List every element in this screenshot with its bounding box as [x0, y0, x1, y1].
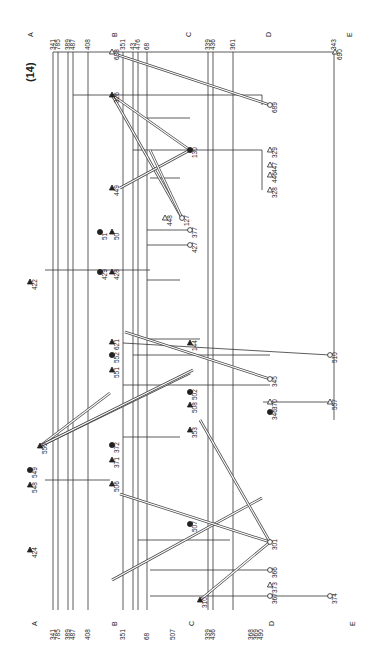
bus-labels-d-bottom: 368 369 490 — [247, 629, 264, 640]
node-label: 690 — [336, 49, 343, 60]
node-label: 301 — [271, 539, 278, 550]
svg-text:487: 487 — [69, 39, 76, 50]
region-label-b-bottom: B — [111, 621, 118, 626]
node-label: 424 — [31, 547, 38, 558]
node-label: 127 — [183, 215, 190, 226]
node-label: 688 — [113, 49, 120, 60]
wiring-diagram: (14) A B C D E A B C D E 341 785 389 487… — [0, 0, 382, 651]
bus-labels-b-bottom: 351 68 507 — [119, 629, 176, 640]
node-label: 508 — [191, 402, 198, 413]
svg-text:785: 785 — [54, 39, 61, 50]
region-label-c-top: C — [185, 32, 192, 37]
region-label-e-bottom: E — [349, 621, 356, 626]
node-label: 371 — [113, 457, 120, 468]
cable-lines — [40, 55, 270, 600]
node-label: 50 — [113, 232, 120, 240]
node-label: 447 — [271, 162, 278, 173]
node-label: 326 — [113, 92, 120, 103]
svg-text:351: 351 — [119, 629, 126, 640]
node-label: 448 — [166, 215, 173, 226]
bus-labels-a-bottom: 341 785 389 487 408 — [49, 629, 91, 640]
node-label: 310 — [201, 597, 208, 608]
region-label-d-bottom: D — [268, 621, 275, 626]
node-label: 446 — [271, 172, 278, 183]
svg-text:487: 487 — [69, 629, 76, 640]
node-label: 557 — [331, 399, 338, 410]
bus-a — [53, 52, 88, 610]
bus-labels-a-top: 341 785 389 487 408 — [49, 39, 91, 50]
node-label: 429 — [101, 269, 108, 280]
node-label: 422 — [31, 279, 38, 290]
node-label: 329 — [271, 147, 278, 158]
node-label: 428 — [113, 269, 120, 280]
region-label-b-top: B — [111, 32, 118, 37]
node-label: 130 — [191, 147, 198, 158]
svg-text:436: 436 — [209, 629, 216, 640]
svg-text:408: 408 — [84, 39, 91, 50]
bus-labels-c-top: 339 436 361 — [204, 39, 236, 50]
node-label: 689 — [271, 102, 278, 113]
region-label-d-top: D — [265, 32, 272, 37]
svg-text:507: 507 — [169, 629, 176, 640]
node-label: 366 — [271, 567, 278, 578]
node-label: 427 — [191, 242, 198, 253]
node-label: 374 — [331, 593, 338, 604]
node-label: 449 — [113, 185, 120, 196]
node-label: 372 — [113, 442, 120, 453]
page-number: (14) — [24, 62, 36, 82]
node-label: 328 — [271, 187, 278, 198]
svg-text:351: 351 — [119, 39, 126, 50]
node-label: 370 — [271, 399, 278, 410]
node-label: 621 — [113, 339, 120, 350]
bus-labels-b-top: 351 43 476 68 — [119, 39, 150, 50]
node-label: 345 — [271, 376, 278, 387]
node-label: 549 — [31, 467, 38, 478]
svg-text:408: 408 — [84, 629, 91, 640]
svg-text:476: 476 — [134, 39, 141, 50]
node-label: 507 — [191, 521, 198, 532]
node-label: 346 — [271, 409, 278, 420]
svg-text:68: 68 — [143, 632, 150, 640]
node-label: 373 — [271, 582, 278, 593]
node-label: 548 — [31, 482, 38, 493]
node-label: 551 — [113, 367, 120, 378]
node-label: 502 — [191, 389, 198, 400]
node-label: 550 — [41, 443, 48, 454]
node-label: 506 — [113, 481, 120, 492]
bus-label-e-top: 343 — [330, 39, 337, 50]
svg-text:785: 785 — [54, 629, 61, 640]
svg-text:436: 436 — [209, 39, 216, 50]
svg-text:361: 361 — [229, 39, 236, 50]
node-label: 552 — [113, 352, 120, 363]
node-label: 367 — [271, 593, 278, 604]
nodes-layer: 6883266906891303294474463284491274485051… — [27, 49, 343, 608]
region-label-a-top: A — [27, 32, 34, 37]
region-label-a-bottom: A — [31, 621, 38, 626]
region-label-e-top: E — [346, 32, 353, 37]
svg-text:490: 490 — [257, 629, 264, 640]
node-label: 144 — [191, 340, 198, 351]
region-label-c-bottom: C — [188, 621, 195, 626]
node-label: 377 — [191, 227, 198, 238]
bus-labels-c-bottom: 339 436 — [204, 629, 216, 640]
svg-text:68: 68 — [143, 42, 150, 50]
node-label: 353 — [191, 427, 198, 438]
node-label: 510 — [331, 352, 338, 363]
node-label: 51 — [101, 232, 108, 240]
